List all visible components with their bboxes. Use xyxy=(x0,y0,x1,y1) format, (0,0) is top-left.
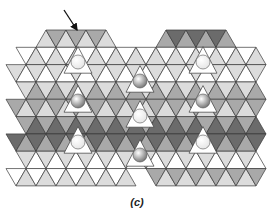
cation-sphere-icon xyxy=(196,135,210,149)
cation-sphere-icon xyxy=(133,74,147,88)
cation-sphere-icon xyxy=(196,55,210,69)
cation-sphere-icon xyxy=(71,135,85,149)
crystal-structure-figure xyxy=(0,0,274,217)
cation-sphere-icon xyxy=(71,94,85,108)
cation-sphere-icon xyxy=(133,148,147,162)
figure-caption: (c) xyxy=(0,196,274,208)
polyhedra-diagram xyxy=(0,0,274,217)
cation-sphere-icon xyxy=(71,55,85,69)
cation-sphere-icon xyxy=(133,109,147,123)
pointer-arrow-icon xyxy=(64,10,77,30)
cation-sphere-icon xyxy=(196,94,210,108)
